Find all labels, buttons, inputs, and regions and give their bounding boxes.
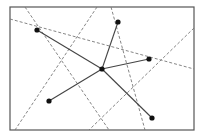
edge [49, 69, 102, 101]
center-node [99, 66, 104, 71]
dashed-line [111, 7, 145, 130]
outer-node [149, 115, 154, 120]
outer-node [115, 19, 120, 24]
edge [102, 69, 152, 118]
dashed-line [10, 19, 194, 69]
star-network-diagram [0, 0, 199, 136]
edge [102, 22, 118, 69]
outer-node [146, 56, 151, 61]
nodes [34, 19, 154, 120]
outer-node [34, 27, 39, 32]
dashed-line [89, 28, 194, 130]
dashed-line [25, 7, 109, 130]
dashed-line [15, 7, 97, 130]
edges [37, 22, 152, 118]
outer-node [46, 98, 51, 103]
edge [37, 30, 102, 69]
